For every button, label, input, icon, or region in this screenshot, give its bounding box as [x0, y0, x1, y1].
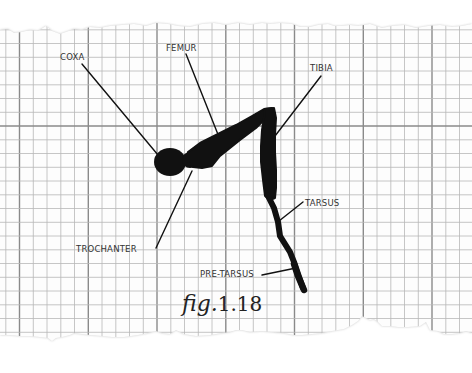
label-tarsus: TARSUS: [304, 198, 339, 208]
label-tibia: TIBIA: [309, 63, 333, 73]
figure-caption-prefix: fig.: [180, 291, 218, 316]
coxa-segment: [154, 148, 186, 176]
figure-caption-number: 1.18: [218, 292, 263, 316]
diagram-canvas: COXA FEMUR TIBIA TROCHANTER TARSUS PRE-T…: [0, 0, 472, 373]
tibia-segment: [261, 108, 276, 200]
label-pre-tarsus: PRE-TARSUS: [200, 269, 254, 279]
label-femur: FEMUR: [166, 43, 197, 53]
label-trochanter: TROCHANTER: [75, 244, 137, 254]
figure-caption: fig.1.18: [180, 291, 262, 316]
label-coxa: COXA: [60, 52, 85, 62]
